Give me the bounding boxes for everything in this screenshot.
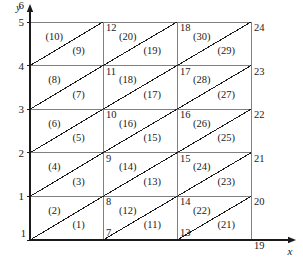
element-label-19: (19)	[144, 46, 162, 57]
element-label-13: (13)	[144, 177, 162, 188]
node-label-8: 8	[106, 197, 111, 208]
diagonal-c1-r1	[103, 153, 177, 197]
element-label-8: (8)	[48, 75, 60, 86]
element-label-23: (23)	[218, 177, 236, 188]
node-label-14: 14	[180, 197, 191, 208]
element-label-16: (16)	[119, 119, 137, 130]
y-tick-label-5: 5	[19, 17, 25, 28]
node-label-21: 21	[254, 154, 265, 165]
y-axis-arrowhead	[27, 4, 33, 12]
diagonal-c0-r1	[30, 153, 103, 197]
x-axis-label: x	[288, 246, 293, 257]
element-label-22: (22)	[193, 206, 211, 217]
y-tick-label-1: 1	[19, 191, 25, 202]
node-label-23: 23	[254, 67, 265, 78]
element-label-3: (3)	[73, 177, 85, 188]
node-label-16: 16	[180, 110, 191, 121]
y-tick-label-2: 2	[19, 148, 25, 159]
node-label-7: 7	[106, 228, 111, 239]
element-label-15: (15)	[144, 133, 162, 144]
element-label-24: (24)	[193, 162, 211, 173]
mesh-diagram: yx12345617891011121314151617181920212223…	[0, 0, 303, 263]
diagonal-c1-r0	[103, 196, 177, 240]
node-label-10: 10	[106, 110, 117, 121]
node-label-11: 11	[106, 67, 116, 78]
diagonal-c0-r0	[30, 196, 103, 240]
node-label-13: 13	[180, 228, 191, 239]
element-label-21: (21)	[218, 220, 236, 231]
element-label-4: (4)	[48, 162, 60, 173]
node-label-19: 19	[254, 241, 265, 252]
element-label-28: (28)	[193, 75, 211, 86]
element-label-17: (17)	[144, 90, 162, 101]
element-label-27: (27)	[218, 90, 236, 101]
element-label-1: (1)	[73, 220, 85, 231]
element-label-11: (11)	[144, 220, 161, 231]
element-label-26: (26)	[193, 119, 211, 130]
element-label-2: (2)	[48, 206, 60, 217]
y-tick-label-4: 4	[19, 61, 25, 72]
element-label-6: (6)	[48, 119, 60, 130]
element-label-18: (18)	[119, 75, 137, 86]
diagonal-c0-r3	[30, 66, 103, 110]
element-label-9: (9)	[73, 46, 85, 57]
node-label-15: 15	[180, 154, 191, 165]
node-label-9: 9	[106, 154, 111, 165]
node-label-1: 1	[21, 229, 26, 240]
diagonal-c0-r2	[30, 109, 103, 153]
node-label-12: 12	[106, 23, 117, 34]
element-label-7: (7)	[73, 90, 85, 101]
element-label-25: (25)	[218, 133, 236, 144]
node-label-18: 18	[180, 23, 191, 34]
node-label-20: 20	[254, 197, 265, 208]
element-label-14: (14)	[119, 162, 137, 173]
element-label-20: (20)	[119, 32, 137, 43]
node-label-17: 17	[180, 67, 191, 78]
element-label-29: (29)	[218, 46, 236, 57]
y-tick-label-3: 3	[19, 104, 25, 115]
element-label-12: (12)	[119, 206, 137, 217]
x-axis-arrowhead	[288, 237, 296, 243]
node-label-22: 22	[254, 110, 265, 121]
y-tick-label-6: 6	[19, 0, 25, 11]
element-label-30: (30)	[193, 32, 211, 43]
element-label-10: (10)	[46, 32, 64, 43]
node-label-24: 24	[254, 23, 265, 34]
diagonal-c0-r4	[30, 22, 103, 66]
element-label-5: (5)	[73, 133, 85, 144]
